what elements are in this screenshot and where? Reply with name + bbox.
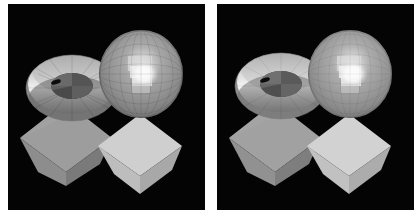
figure-container: [0, 0, 420, 221]
render-panel-right[interactable]: [217, 4, 414, 210]
sphere-shape: [99, 30, 183, 118]
scene-right: [217, 4, 414, 210]
render-panel-left[interactable]: [8, 4, 205, 210]
sphere-shape: [308, 30, 392, 118]
scene-left: [8, 4, 205, 210]
scene-right-svg: [217, 4, 414, 210]
scene-left-svg: [8, 4, 205, 210]
